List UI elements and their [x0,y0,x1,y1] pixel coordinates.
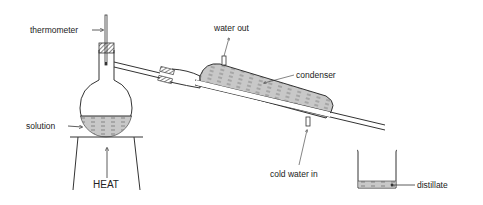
side-arm [114,62,160,78]
label-distillate: distillate [417,180,448,190]
beaker [357,150,397,188]
label-solution: solution [26,121,56,131]
connector-stopper-top [160,66,175,74]
thermometer [105,15,107,65]
label-thermometer: thermometer [30,25,78,35]
label-heat: HEAT [93,179,119,190]
stopper [99,43,114,53]
label-water-out: water out [213,23,250,33]
label-cold-water-in: cold water in [270,169,318,179]
label-condenser: condenser [296,70,336,80]
distillation-diagram: thermometer water out condenser solution… [0,0,483,205]
condenser [170,56,385,130]
